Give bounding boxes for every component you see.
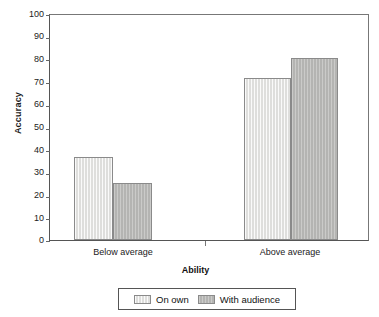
legend-label-on-own: On own: [156, 294, 189, 305]
y-tick-mark-20: [46, 197, 50, 198]
y-tick-label-90: 90: [18, 32, 44, 41]
legend-label-with-audience: With audience: [220, 294, 280, 305]
y-tick-mark-70: [46, 83, 50, 84]
y-tick-label-70: 70: [18, 78, 44, 87]
bar-below-average-with-audience: [113, 183, 152, 240]
y-tick-mark-90: [46, 38, 50, 39]
y-tick-mark-100: [46, 15, 50, 16]
bar-below-average-on-own: [74, 157, 113, 240]
y-tick-label-30: 30: [18, 168, 44, 177]
bar-above-average-with-audience: [291, 58, 338, 240]
y-tick-label-100: 100: [18, 10, 44, 19]
y-tick-mark-0: [46, 241, 50, 242]
y-tick-mark-40: [46, 151, 50, 152]
y-tick-label-50: 50: [18, 123, 44, 132]
y-tick-mark-60: [46, 106, 50, 107]
x-axis-title: Ability: [182, 265, 210, 275]
y-tick-mark-30: [46, 174, 50, 175]
y-tick-label-20: 20: [18, 191, 44, 200]
y-tick-label-40: 40: [18, 146, 44, 155]
legend-entry-with-audience: With audience: [198, 294, 280, 305]
x-tick-label-below-average: Below average: [73, 247, 173, 257]
y-tick-label-80: 80: [18, 55, 44, 64]
y-tick-label-10: 10: [18, 214, 44, 223]
y-tick-label-0: 0: [18, 236, 44, 245]
x-axis-group-separator-tick: [205, 241, 206, 246]
plot-area: [49, 14, 369, 241]
x-axis-title-wrap: Ability: [0, 265, 379, 275]
bar-chart: Accuracy 100 90 80 70 60 50 40 30 20 10 …: [0, 0, 379, 317]
bar-above-average-on-own: [244, 78, 291, 240]
legend-entry-on-own: On own: [134, 294, 189, 305]
y-tick-label-60: 60: [18, 100, 44, 109]
y-tick-mark-10: [46, 219, 50, 220]
legend: On own With audience: [118, 288, 296, 310]
legend-swatch-with-audience-icon: [198, 295, 215, 304]
x-tick-label-above-average: Above average: [240, 247, 340, 257]
y-tick-mark-80: [46, 60, 50, 61]
y-tick-mark-50: [46, 129, 50, 130]
legend-swatch-on-own-icon: [134, 295, 151, 304]
